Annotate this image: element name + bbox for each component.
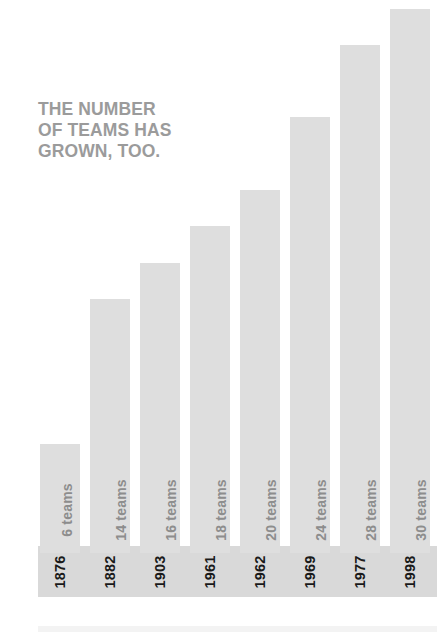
page-title: THE NUMBER OF TEAMS HAS GROWN, TOO.: [38, 99, 268, 162]
bar: [40, 444, 80, 553]
bar-chart: 6 teams14 teams16 teams18 teams20 teams2…: [0, 0, 444, 635]
year-label: 1903: [140, 546, 180, 597]
bar: [340, 45, 380, 553]
year-label: 1882: [90, 546, 130, 597]
bar: [390, 9, 430, 554]
bar: [190, 226, 230, 553]
footer-rule: [38, 626, 437, 632]
year-label: 1969: [290, 546, 330, 597]
plot-area: 6 teams14 teams16 teams18 teams20 teams2…: [0, 0, 444, 597]
year-label: 1876: [40, 546, 80, 597]
year-label: 1998: [390, 546, 430, 597]
year-label: 1961: [190, 546, 230, 597]
bar: [90, 299, 130, 553]
year-label: 1977: [340, 546, 380, 597]
year-label: 1962: [240, 546, 280, 597]
bar: [140, 263, 180, 553]
bar: [240, 190, 280, 553]
bar: [290, 117, 330, 553]
